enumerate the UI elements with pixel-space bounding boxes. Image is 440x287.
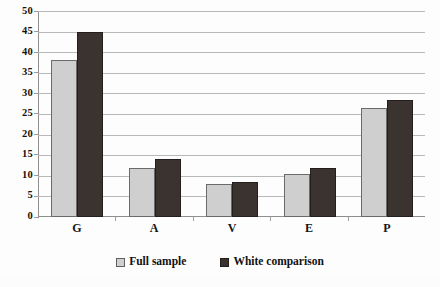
x-tick-label-P: P: [357, 222, 417, 234]
bar-P-full-sample: [361, 108, 387, 217]
y-tick-label-0: 0: [3, 211, 33, 222]
y-tick-label-40: 40: [3, 47, 33, 58]
gridline-50: [38, 11, 425, 12]
x-tick-2: [193, 217, 194, 221]
y-tick-label-5: 5: [3, 190, 33, 201]
x-axis-tick-labels: G A V E P: [38, 222, 425, 244]
bar-V-full-sample: [206, 184, 232, 217]
bar-V-white-comparison: [232, 182, 258, 217]
y-tick-label-20: 20: [3, 129, 33, 140]
y-tick-label-35: 35: [3, 67, 33, 78]
legend-label-white-comparison: White comparison: [233, 256, 323, 268]
y-tick-label-10: 10: [3, 170, 33, 181]
y-axis-tick-labels: 50 45 40 35 30 25 20 15 10 5 0: [0, 0, 33, 287]
legend-swatch-icon-full-sample: [116, 258, 125, 267]
legend-swatch-icon-white-comparison: [220, 258, 229, 267]
scan-artifact-strip: [0, 274, 440, 287]
y-tick-label-25: 25: [3, 108, 33, 119]
x-tick-3: [270, 217, 271, 221]
x-tick-label-E: E: [279, 222, 339, 234]
x-tick-4: [348, 217, 349, 221]
y-tick-label-50: 50: [3, 6, 33, 17]
bar-A-full-sample: [129, 168, 155, 217]
y-tick-label-15: 15: [3, 149, 33, 160]
plot-area: [38, 11, 425, 217]
y-tick-label-45: 45: [3, 26, 33, 37]
y-tick-label-30: 30: [3, 88, 33, 99]
bar-E-white-comparison: [310, 168, 336, 217]
x-tick-label-A: A: [124, 222, 184, 234]
x-tick-label-V: V: [202, 222, 262, 234]
chart-legend: Full sample White comparison: [0, 252, 440, 272]
bar-G-full-sample: [51, 60, 77, 217]
x-tick-1: [115, 217, 116, 221]
bar-P-white-comparison: [387, 100, 413, 217]
legend-entry-full-sample: Full sample: [116, 256, 186, 268]
legend-label-full-sample: Full sample: [129, 256, 186, 268]
bar-A-white-comparison: [155, 159, 181, 217]
legend-entry-white-comparison: White comparison: [220, 256, 323, 268]
x-tick-label-G: G: [47, 222, 107, 234]
bar-chart-figure: 50 45 40 35 30 25 20 15 10 5 0: [0, 0, 440, 287]
bar-G-white-comparison: [77, 32, 103, 217]
bar-E-full-sample: [284, 174, 310, 217]
